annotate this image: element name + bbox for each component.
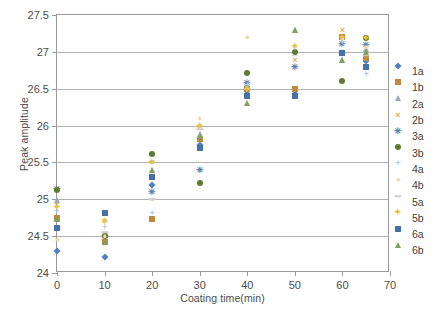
x-tick [390,271,391,276]
data-point-1a [53,247,60,254]
data-point-6b [197,133,203,139]
data-point-5b: ✦ [338,33,347,42]
legend-item-2b[interactable]: ×2b [398,112,447,128]
data-point-5b: ✦ [362,33,371,42]
data-point-1b [197,136,203,142]
data-point-5b: ✦ [53,202,62,211]
data-point-5a [196,129,203,131]
y-tick-label: 25.5 [28,156,49,168]
legend-item-5b[interactable]: ✦5b [398,210,447,226]
y-tick [52,199,57,200]
data-point-5b: ✦ [290,41,299,50]
legend-label: 6b [412,244,424,256]
legend-item-3a[interactable]: ✳3a [398,128,447,144]
gridline [57,52,388,53]
legend-label: 5a [412,196,424,208]
data-point-4a: + [148,208,157,217]
data-point-3b [363,35,369,41]
legend-item-6b[interactable]: 6b [398,242,447,258]
y-tick-label: 25 [37,193,49,205]
data-point-2b: × [362,33,371,42]
legend-label: 5b [412,212,424,224]
x-tick [342,271,343,276]
y-tick [52,236,57,237]
data-point-5a [101,232,108,234]
legend-marker-cross-icon: × [398,115,409,126]
data-point-4b [293,46,297,50]
gridline [57,162,388,163]
legend-item-1b[interactable]: 1b [398,79,447,95]
data-point-1a [291,90,298,97]
x-tick-label: 30 [194,279,206,291]
legend-item-4a[interactable]: +4a [398,161,447,177]
data-point-1a [149,181,156,188]
data-point-1b [339,34,345,40]
y-tick-label: 24 [37,267,49,279]
data-point-2b: × [338,25,347,34]
y-tick [52,15,57,16]
y-tick-label: 27.5 [28,9,49,21]
legend-marker-diamond-icon [398,66,409,77]
x-tick [247,271,248,276]
data-point-2b: × [100,216,109,225]
data-point-1a [363,57,370,64]
x-tick [295,271,296,276]
y-tick-label: 24.5 [28,230,49,242]
legend-item-6a[interactable]: 6a [398,226,447,242]
legend-item-1a[interactable]: 1a [398,63,447,79]
data-point-3a: ✳ [148,187,157,196]
data-point-3a: ✳ [243,78,252,87]
x-tick [57,271,58,276]
legend-marker-triangle-icon [398,98,409,109]
legend-item-2a[interactable]: 2a [398,96,447,112]
legend-item-5a[interactable]: 5a [398,193,447,209]
data-point-1b [54,215,60,221]
gridline [57,126,388,127]
scatter-chart: Peak amplitude 2424.52525.52626.52727.5 … [0,0,447,313]
data-point-6a [292,93,298,99]
gridline [57,199,388,200]
data-point-2a [292,27,298,33]
data-point-3b [197,180,203,186]
legend-marker-star-icon: ✦ [398,212,409,223]
legend-marker-circle-icon [398,147,409,158]
y-tick [52,52,57,53]
y-tick [52,162,57,163]
y-tick [52,89,57,90]
data-point-4b [364,46,368,50]
data-point-6a [197,145,203,151]
legend-marker-plus-icon: + [398,163,409,174]
data-point-1b [102,239,108,245]
data-point-6a [54,225,60,231]
y-tick [52,126,57,127]
legend-label: 4a [412,163,424,175]
data-point-6b [102,239,108,245]
legend-marker-asterisk-icon: ✳ [398,131,409,142]
data-point-4b [198,116,202,120]
data-point-6a [363,64,369,70]
data-point-5b: ✦ [100,216,109,225]
data-point-2a [197,131,203,137]
data-point-1a [101,253,108,260]
data-point-2b: × [290,55,299,64]
x-tick [152,271,153,276]
data-point-6b [339,57,345,63]
data-point-4a: + [195,133,204,142]
legend-label: 6a [412,228,424,240]
data-point-4a: + [362,69,371,78]
data-point-2a [339,57,345,63]
data-point-2b: × [53,201,62,210]
legend-marker-dot-icon [398,180,409,191]
data-point-6a [149,174,155,180]
data-point-1b [363,55,369,61]
chart-legend: 1a1b2a×2b✳3a3b+4a4b5a✦5b6a6b [398,63,447,259]
legend-marker-square-icon [398,82,409,93]
data-point-2a [149,167,155,173]
data-point-6a [102,210,108,216]
y-tick-label: 26.5 [28,83,49,95]
data-point-5a [54,226,61,228]
legend-item-3b[interactable]: 3b [398,144,447,160]
legend-label: 1b [412,81,424,93]
legend-item-4b[interactable]: 4b [398,177,447,193]
data-point-5a [363,55,370,57]
